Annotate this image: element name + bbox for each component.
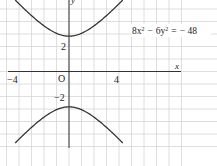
hyperbola-chart: x y O −4 4 2 −2 8x2−6y2=− 48: [0, 0, 217, 166]
y-axis-label: y: [70, 0, 75, 5]
x-tick-label: 4: [114, 74, 119, 85]
y-tick-label: −2: [54, 92, 65, 103]
origin-label: O: [58, 73, 65, 84]
equation-label: 8x2−6y2=− 48: [131, 24, 211, 37]
x-tick-label: −4: [7, 74, 18, 85]
x-axis-label: x: [174, 61, 179, 71]
y-tick-label: 2: [61, 41, 66, 52]
